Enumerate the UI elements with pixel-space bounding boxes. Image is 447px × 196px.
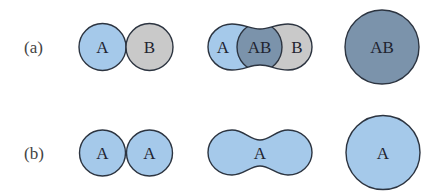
label-a: A: [254, 144, 267, 163]
row-label-a: (a): [24, 38, 43, 57]
row-label-b: (b): [24, 144, 44, 163]
row-a-stage-1: A B: [79, 24, 173, 71]
row-a: (a) A B A AB B: [24, 10, 419, 84]
label-a: A: [96, 38, 109, 57]
row-b: (b) A A A A: [24, 116, 420, 190]
label-a: A: [217, 38, 230, 57]
label-b: B: [291, 38, 302, 57]
label-ab: AB: [370, 38, 394, 57]
row-b-stage-2: A: [208, 130, 312, 175]
row-b-stage-3: A: [346, 116, 420, 190]
row-a-stage-2: A AB B: [205, 20, 316, 75]
label-a: A: [143, 144, 156, 163]
label-b: B: [144, 38, 155, 57]
label-a: A: [377, 144, 390, 163]
row-b-stage-1: A A: [80, 130, 173, 176]
label-a: A: [96, 144, 109, 163]
label-ab: AB: [248, 38, 272, 57]
row-a-stage-3: AB: [345, 10, 419, 84]
coalescence-diagram: (a) A B A AB B: [0, 0, 447, 196]
